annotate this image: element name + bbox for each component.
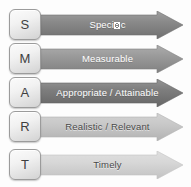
letter-tile-glyph: M [19,52,30,65]
letter-tile-a: A [9,77,41,108]
smart-row-t: TimelyT [0,148,191,182]
arrow-label-r: Realistic / Relevant [45,113,170,141]
arrow-label-text: Realistic / Relevant [65,122,149,132]
letter-tile-t: T [9,149,41,180]
arrow-label-a: Appropriate / Attainable [45,79,170,107]
arrow-label-text: Timely [93,160,122,170]
smart-goals-diagram: SpecicSMeasurableMAppropriate / Attainab… [0,0,191,187]
letter-tile-m: M [9,43,41,74]
arrow-label-t: Timely [45,151,170,179]
smart-row-m: MeasurableM [0,42,191,76]
letter-tile-s: S [9,9,41,40]
smart-row-s: SpecicS [0,8,191,42]
letter-tile-glyph: S [21,18,30,31]
letter-tile-glyph: T [21,158,29,171]
letter-tile-r: R [9,111,41,142]
arrow-label-text: Speci [89,20,114,30]
arrow-label-m: Measurable [45,45,170,73]
smart-row-r: Realistic / RelevantR [0,110,191,144]
arrow-label-s: Specic [45,11,170,39]
letter-tile-glyph: R [20,120,30,133]
missing-glyph-icon [114,22,120,30]
arrow-label-text-suffix: c [121,20,126,30]
arrow-label-text: Measurable [82,54,133,64]
letter-tile-glyph: A [21,86,30,99]
arrow-label-text: Appropriate / Attainable [56,88,158,98]
smart-row-a: Appropriate / AttainableA [0,76,191,110]
